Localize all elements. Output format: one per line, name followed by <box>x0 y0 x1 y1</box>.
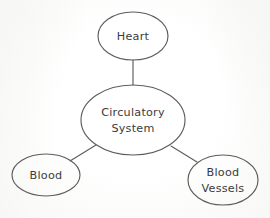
edge-center-to-blood <box>70 145 96 161</box>
node-blood-label: Blood <box>30 169 63 182</box>
node-circulatory-system-ellipse <box>81 85 185 155</box>
node-blood-vessels-label-line2: Vessels <box>202 182 245 195</box>
node-heart[interactable]: Heart <box>98 12 168 60</box>
node-blood[interactable]: Blood <box>12 154 80 196</box>
node-blood-vessels-ellipse <box>188 155 258 205</box>
node-blood-vessels[interactable]: Blood Vessels <box>188 155 258 205</box>
concept-map-svg: Heart Circulatory System Blood Blood Ves… <box>0 0 270 218</box>
edge-center-to-blood-vessels <box>171 146 197 162</box>
node-heart-label: Heart <box>117 30 150 43</box>
diagram-canvas: Heart Circulatory System Blood Blood Ves… <box>0 0 270 218</box>
node-circulatory-system-label-line2: System <box>111 122 154 135</box>
node-circulatory-system[interactable]: Circulatory System <box>81 85 185 155</box>
node-blood-vessels-label-line1: Blood <box>207 166 240 179</box>
node-circulatory-system-label-line1: Circulatory <box>101 106 165 119</box>
